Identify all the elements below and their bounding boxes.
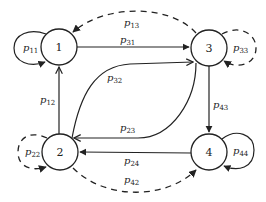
markov-state-diagram: 1 3 2 4 p11 p31 p13 p33 p12 p32 p23 p43 …	[0, 0, 266, 202]
node-4-label: 4	[206, 146, 213, 159]
node-1-label: 1	[56, 41, 63, 54]
label-p24: p24	[124, 155, 140, 168]
label-p42: p42	[124, 174, 139, 187]
label-p23: p23	[120, 122, 135, 135]
node-2-label: 2	[57, 146, 64, 159]
label-p22: p22	[25, 146, 40, 159]
label-p12: p12	[40, 94, 55, 107]
node-1: 1	[41, 29, 77, 65]
label-p43: p43	[213, 99, 228, 112]
label-p13: p13	[124, 17, 139, 30]
node-4: 4	[191, 134, 227, 170]
label-p31: p31	[120, 34, 135, 47]
node-3-label: 3	[206, 42, 213, 55]
label-p33: p33	[233, 42, 248, 55]
node-2: 2	[42, 134, 78, 170]
label-p32: p32	[107, 72, 122, 85]
edge-4-to-2	[80, 152, 191, 153]
node-3: 3	[191, 30, 227, 66]
label-p11: p11	[23, 42, 38, 55]
label-p44: p44	[233, 145, 249, 158]
